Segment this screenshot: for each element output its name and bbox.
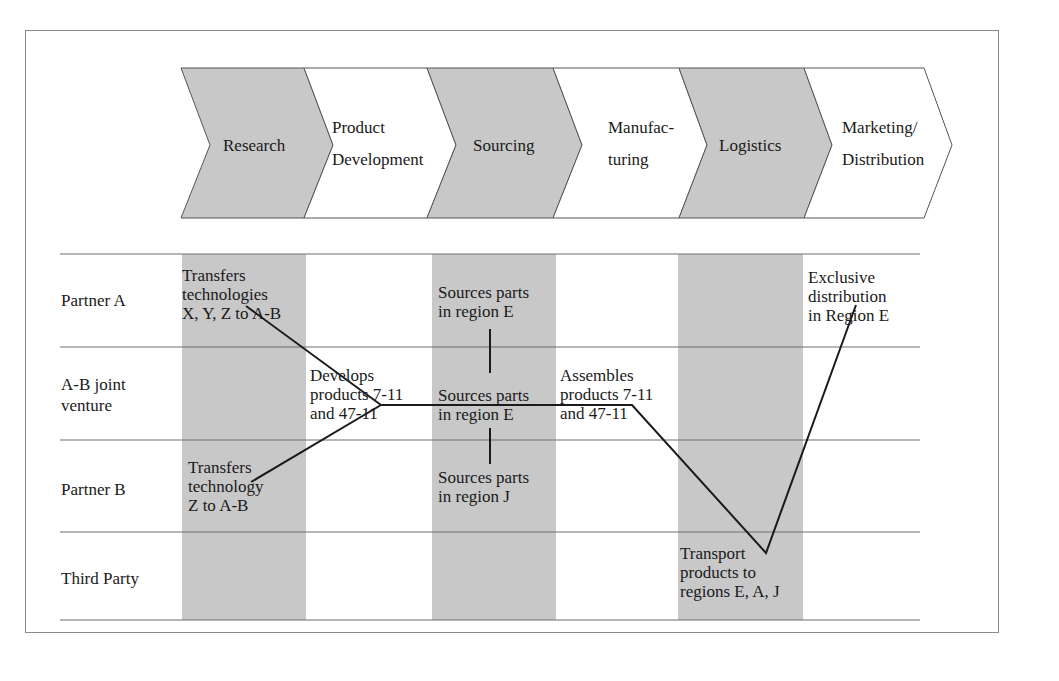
text-line: Exclusive [808, 268, 889, 287]
text-line: in Region E [808, 306, 889, 325]
text-line: products 7-11 [560, 385, 653, 404]
text-line: X, Y, Z to A-B [182, 304, 281, 323]
row-label-third-party: Third Party [61, 568, 139, 589]
text-line: Transport [680, 544, 780, 563]
stage-logistics-label: Logistics [719, 131, 781, 161]
text-line: Sources parts [438, 386, 529, 405]
row-label-partner-a: Partner A [61, 290, 126, 311]
stage-research-label: Research [223, 131, 285, 161]
text-line: and 47-11 [310, 404, 403, 423]
stage-product-development-line1: Product [332, 113, 424, 143]
text-line: in region E [438, 405, 529, 424]
row-label-jv-line1: A-B joint [61, 374, 126, 395]
row-label-jv-line2: venture [61, 395, 126, 416]
stage-marketing-distribution-label: Marketing/ Distribution [842, 113, 924, 175]
activity-partner-a-marketing: Exclusive distribution in Region E [808, 268, 889, 325]
activity-jv-sourcing: Sources parts in region E [438, 386, 529, 424]
stage-product-development-label: Product Development [332, 113, 424, 175]
text-line: and 47-11 [560, 404, 653, 423]
text-line: products 7-11 [310, 385, 403, 404]
row-label-partner-b: Partner B [61, 479, 126, 500]
activity-partner-b-sourcing: Sources parts in region J [438, 468, 529, 506]
text-line: in region J [438, 487, 529, 506]
stage-product-development-line2: Development [332, 145, 424, 175]
text-line: Transfers [188, 458, 264, 477]
stage-manufacturing-line2: turing [608, 145, 674, 175]
text-line: Z to A-B [188, 496, 264, 515]
text-line: regions E, A, J [680, 582, 780, 601]
activity-partner-a-sourcing: Sources parts in region E [438, 283, 529, 321]
value-chain-chevrons [181, 68, 952, 218]
activity-partner-a-research: Transfers technologies X, Y, Z to A-B [182, 266, 281, 323]
stage-sourcing-label: Sourcing [473, 131, 534, 161]
text-line: Sources parts [438, 283, 529, 302]
stage-marketing-line1: Marketing/ [842, 113, 924, 143]
activity-third-party-logistics: Transport products to regions E, A, J [680, 544, 780, 601]
activity-partner-b-research: Transfers technology Z to A-B [188, 458, 264, 515]
text-line: technology [188, 477, 264, 496]
stage-manufacturing-label: Manufac- turing [608, 113, 674, 175]
text-line: technologies [182, 285, 281, 304]
text-line: Assembles [560, 366, 653, 385]
text-line: in region E [438, 302, 529, 321]
text-line: distribution [808, 287, 889, 306]
diagram-canvas [0, 0, 1059, 681]
row-label-ab-joint-venture: A-B joint venture [61, 374, 126, 416]
text-line: Transfers [182, 266, 281, 285]
stage-manufacturing-line1: Manufac- [608, 113, 674, 143]
activity-jv-manufacturing: Assembles products 7-11 and 47-11 [560, 366, 653, 423]
stage-marketing-line2: Distribution [842, 145, 924, 175]
activity-jv-product-development: Develops products 7-11 and 47-11 [310, 366, 403, 423]
text-line: Sources parts [438, 468, 529, 487]
text-line: Develops [310, 366, 403, 385]
text-line: products to [680, 563, 780, 582]
